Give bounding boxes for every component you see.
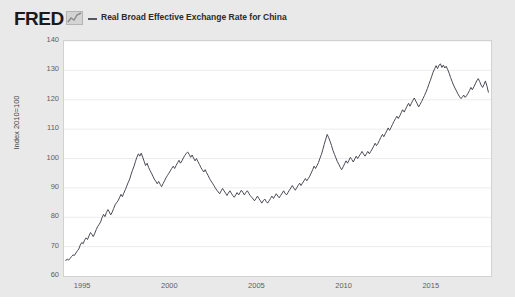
y-axis-tick-label: 100	[19, 154, 59, 162]
fred-chart-figure: FRED Real Broad Effective Exchange Rate …	[0, 0, 515, 297]
series-line-real-broad-effective-exchange-rate	[66, 64, 489, 261]
y-axis-tick-label: 140	[19, 36, 59, 44]
y-axis-tick-label: 60	[19, 271, 59, 279]
y-axis-tick-label: 80	[19, 212, 59, 220]
fred-logo: FRED	[14, 9, 64, 28]
gridlines	[64, 41, 491, 247]
legend-line-swatch	[88, 18, 97, 20]
x-axis-tick-label: 1995	[52, 282, 112, 290]
chart-header: FRED Real Broad Effective Exchange Rate …	[0, 0, 515, 33]
x-axis-tick-label: 2015	[401, 282, 461, 290]
y-axis-ticks: 14013012011010090807060	[18, 40, 59, 277]
y-axis-tick-label: 110	[19, 124, 59, 132]
y-axis-tick-label: 130	[19, 65, 59, 73]
y-axis-label: Index 2010=100	[12, 78, 21, 168]
chart-canvas	[64, 41, 491, 276]
plot-area	[63, 40, 492, 277]
legend-series-label: Real Broad Effective Exchange Rate for C…	[101, 12, 287, 22]
y-axis-tick-label: 70	[19, 242, 59, 250]
figure-footer-band	[0, 297, 515, 306]
y-axis-tick-label: 120	[19, 95, 59, 103]
x-axis-tick-label: 2000	[139, 282, 199, 290]
x-axis-tick-label: 2005	[226, 282, 286, 290]
mini-chart-icon	[66, 11, 83, 25]
x-axis-tick-label: 2010	[314, 282, 374, 290]
x-axis-ticks: 19952000200520102015	[63, 282, 492, 294]
y-axis-tick-label: 90	[19, 183, 59, 191]
